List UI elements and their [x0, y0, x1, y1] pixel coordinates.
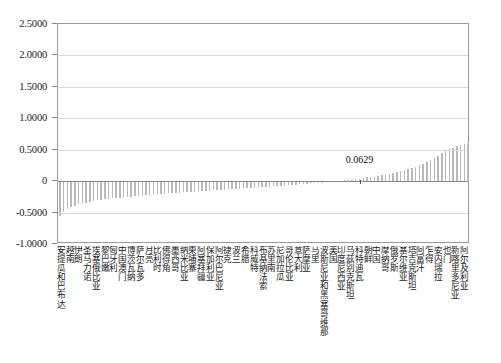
x-axis-tick-label: 科特迪瓦 [355, 246, 364, 282]
x-axis-tick-label: 比利时 [153, 246, 162, 273]
gridline [58, 118, 468, 119]
bar [445, 151, 446, 181]
bar [149, 181, 150, 195]
x-axis-tick-label: 意大利 [294, 246, 303, 273]
bar [168, 181, 169, 193]
y-axis: 2.50002.00001.50001.00000.50000-0.5000-1… [0, 0, 57, 266]
bar [78, 181, 79, 204]
bar [74, 181, 75, 206]
bar [400, 171, 401, 181]
bar [186, 181, 187, 192]
x-axis-tick-label: 尼加拉瓜 [276, 246, 285, 282]
x-axis-tick-label: 苏里南 [267, 246, 276, 273]
bar [213, 181, 214, 190]
gridline [58, 55, 468, 56]
x-axis-tick-label: 新喀里多尼亚 [451, 246, 460, 301]
x-axis-tick-label: 阿尔及利亚 [460, 246, 469, 291]
bar [396, 172, 397, 181]
bar [171, 181, 172, 193]
bar [164, 181, 165, 194]
bar [250, 181, 251, 188]
x-axis: 安提瓜和巴布达越南伊朗圣马力诺埃塞俄比亚黎巴嫩匈牙利中国澳门博茨瓦纳萨尔瓦多月亮… [57, 246, 469, 363]
x-axis-tick-label: 佛得角 [162, 246, 171, 273]
bar [59, 181, 60, 216]
bar [389, 174, 390, 181]
bar [97, 181, 98, 200]
bar [157, 181, 158, 194]
bar [108, 181, 109, 199]
x-axis-tick-label: 塔吉克斯坦 [408, 246, 417, 291]
y-axis-tick-label: 0 [42, 175, 47, 186]
bar [104, 181, 105, 199]
bar [235, 181, 236, 189]
x-axis-tick-label: 中国 [372, 246, 381, 264]
bar [422, 164, 423, 181]
bar [123, 181, 124, 197]
data-label-marker [360, 180, 361, 184]
x-axis-tick-label: 伊朗 [74, 246, 83, 264]
x-axis-tick-label: 哥伦比亚 [285, 246, 294, 282]
x-axis-tick-label: 萨尔瓦多 [136, 246, 145, 282]
y-axis-tick-label: -0.5000 [16, 206, 47, 217]
x-axis-tick-label: 乌兹别克斯坦 [346, 246, 355, 301]
bar [93, 181, 94, 201]
x-axis-tick-label: 也门 [443, 246, 452, 264]
bar [205, 181, 206, 191]
x-axis-tick-label: 阿富汗 [416, 246, 425, 273]
x-axis-tick-label: 马里 [311, 246, 320, 264]
bar [183, 181, 184, 192]
bar [198, 181, 199, 191]
bar [190, 181, 191, 192]
zero-line [58, 181, 468, 182]
bar [220, 181, 221, 190]
bar [70, 181, 71, 207]
x-axis-tick-label: 月亮 [145, 246, 154, 264]
bars-layer [58, 24, 468, 242]
bar [411, 168, 412, 181]
x-axis-tick-label: 朝鲜 [364, 246, 373, 264]
x-axis-tick-label: 印度尼西亚 [337, 246, 346, 291]
y-axis-tick-label: 2.5000 [19, 18, 47, 29]
bar [134, 181, 135, 196]
bar [115, 181, 116, 198]
x-axis-tick-label: 阿塞拜疆 [197, 246, 206, 282]
bar [216, 181, 217, 190]
x-axis-tick-label: 塞尔维亚 [399, 246, 408, 282]
bar [437, 156, 438, 182]
x-axis-tick-label: 墨西哥 [171, 246, 180, 273]
bar [243, 181, 244, 188]
x-axis-tick-label: 摩纳哥 [381, 246, 390, 273]
x-axis-tick-label: 黎巴嫩 [101, 246, 110, 273]
y-axis-tick-label: 0.5000 [19, 143, 47, 154]
bar [100, 181, 101, 200]
data-point-label: 0.0629 [346, 154, 374, 165]
bar [85, 181, 86, 202]
bar [434, 158, 435, 181]
bar [456, 146, 457, 181]
bar [452, 148, 453, 182]
gridline [58, 87, 468, 88]
bar [224, 181, 225, 189]
x-axis-tick-label: 阿尔巴尼亚 [215, 246, 224, 291]
x-axis-tick-label: 越南 [66, 246, 75, 264]
bar [63, 181, 64, 212]
bar [145, 181, 146, 195]
y-axis-tick-mark [52, 243, 57, 244]
bar [160, 181, 161, 194]
x-axis-tick-label: 捷克 [223, 246, 232, 264]
x-axis-tick-label: 波兰 [232, 246, 241, 264]
bar [246, 181, 247, 188]
x-axis-tick-label: 科威特 [250, 246, 259, 273]
bar [449, 149, 450, 181]
x-axis-tick-label: 安提瓜和巴布达 [57, 246, 66, 310]
bar [231, 181, 232, 189]
x-axis-tick-label: 布基纳法索 [259, 246, 268, 291]
x-axis-tick-label: 委内瑞拉 [434, 246, 443, 282]
bar [138, 181, 139, 196]
x-axis-tick-label: 匈牙利 [109, 246, 118, 273]
bar [153, 181, 154, 194]
bar [441, 153, 442, 181]
x-axis-tick-label: 中国澳门 [118, 246, 127, 282]
bar [209, 181, 210, 190]
bar [426, 162, 427, 181]
